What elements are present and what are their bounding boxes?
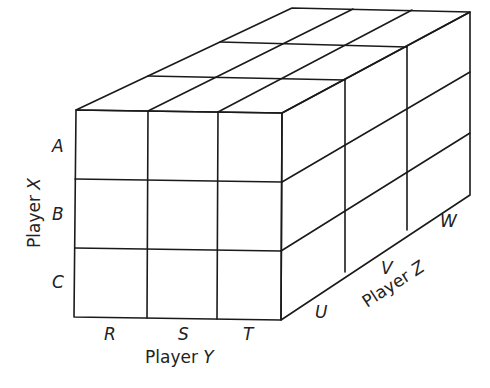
- player-z-axis: U V W Player Z: [315, 211, 458, 322]
- top-face: [76, 8, 470, 113]
- strategy-label-b: B: [52, 204, 64, 224]
- strategy-label-w: W: [440, 211, 458, 231]
- strategy-label-u: U: [315, 302, 328, 322]
- cube-diagram: A B C Player X R S T Player Y U V W Play…: [0, 0, 490, 388]
- player-x-axis: A B C Player X: [24, 136, 64, 292]
- player-y-label: Player Y: [145, 347, 215, 367]
- strategy-label-r: R: [104, 324, 116, 344]
- front-face: [74, 110, 282, 320]
- strategy-label-c: C: [52, 272, 64, 292]
- strategy-label-s: S: [178, 324, 189, 344]
- strategy-label-a: A: [51, 136, 64, 156]
- player-x-label: Player X: [24, 178, 44, 248]
- player-z-label: Player Z: [358, 256, 428, 311]
- right-face: [281, 12, 470, 320]
- player-y-axis: R S T Player Y: [104, 324, 255, 367]
- strategy-label-t: T: [243, 324, 255, 344]
